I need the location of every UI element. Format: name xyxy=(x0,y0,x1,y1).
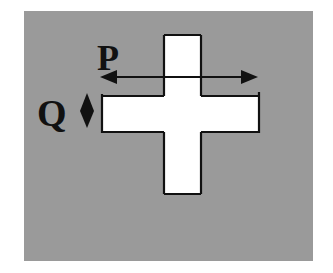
cross-diagram: P Q xyxy=(0,0,333,273)
label-p: P xyxy=(97,38,119,78)
label-q: Q xyxy=(37,92,67,134)
